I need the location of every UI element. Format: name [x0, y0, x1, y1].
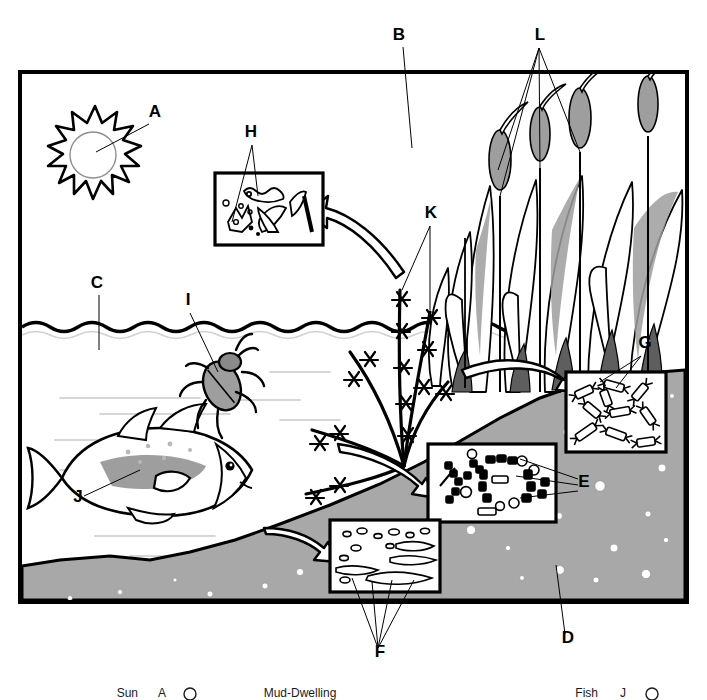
label-L: L: [535, 25, 545, 44]
legend-key-sun: A: [158, 686, 166, 700]
legend-key-fish: J: [620, 686, 626, 700]
label-F: F: [375, 642, 385, 661]
label-H: H: [245, 122, 257, 141]
label-G: G: [638, 333, 651, 352]
pond-ecosystem-diagram: A B C D E F G H I J K L Sun A Mud-Dwelli…: [0, 0, 707, 700]
label-D: D: [562, 628, 574, 647]
label-E: E: [578, 472, 589, 491]
label-J: J: [73, 487, 82, 506]
detritus-inset: [330, 520, 440, 592]
scene-contents: [22, 58, 693, 600]
legend-label-sun: Sun: [117, 686, 138, 700]
phytoplankton-inset: [215, 173, 323, 245]
invertebrates-inset: [566, 372, 666, 452]
diagram-canvas: A B C D E F G H I J K L Sun A Mud-Dwelli…: [0, 0, 707, 700]
legend-label-mud-dwelling: Mud-Dwelling: [264, 686, 337, 700]
label-C: C: [91, 273, 103, 292]
label-A: A: [149, 102, 161, 121]
label-K: K: [425, 203, 438, 222]
label-I: I: [186, 290, 191, 309]
legend-label-fish: Fish: [575, 686, 598, 700]
label-B: B: [393, 25, 405, 44]
bacteria-inset: [428, 444, 556, 522]
